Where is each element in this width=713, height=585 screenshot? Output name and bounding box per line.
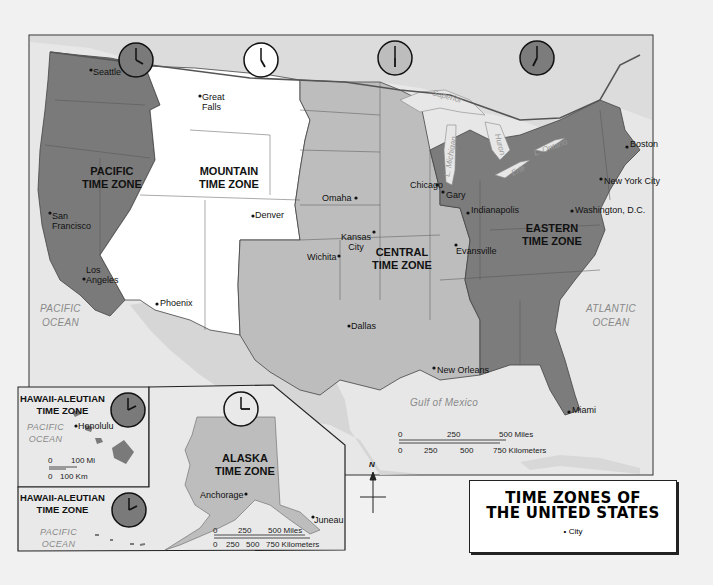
aleutian-pacific-label: PACIFICOCEAN [40, 526, 77, 550]
map-title-line-2: THE UNITED STATES [470, 506, 676, 521]
city-washington-dc: Washington, D.C. [575, 205, 645, 215]
clock-hawaii [111, 393, 145, 427]
city-indianapolis: Indianapolis [471, 205, 519, 215]
main-scale-miles-250: 250 [447, 430, 460, 439]
city-chicago: Chicago [410, 180, 443, 190]
hawaii-scale-mi-100: 100 Mi [71, 456, 95, 465]
zone-label-mountain: MOUNTAINTIME ZONE [199, 165, 259, 191]
city-new-york-city: New York City [604, 176, 660, 186]
zone-label-hawaii: HAWAII-ALEUTIANTIME ZONE [20, 393, 105, 417]
atlantic-ocean-label: ATLANTICOCEAN [586, 302, 636, 330]
main-scale-km-0: 0 [398, 446, 402, 455]
compass-rose [360, 472, 386, 513]
city-kansas-city: KansasCity [341, 232, 371, 252]
alaska-scale-km-250: 250 [226, 540, 239, 549]
pacific-ocean-label: PACIFICOCEAN [40, 302, 81, 330]
clock-eastern [520, 41, 554, 75]
clock-pacific [119, 43, 153, 77]
zone-label-eastern: EASTERNTIME ZONE [522, 222, 582, 248]
city-wichita: Wichita [307, 252, 337, 262]
legend-city: • City [470, 527, 676, 536]
hawaii-scale-mi-0: 0 [48, 456, 52, 465]
clock-aleutian [112, 493, 146, 527]
hawaii-scale-km-0: 0 [48, 472, 52, 481]
city-denver: Denver [255, 210, 284, 220]
clock-central [378, 41, 412, 75]
city-omaha: Omaha [322, 193, 352, 203]
zone-label-central: CENTRALTIME ZONE [372, 246, 432, 272]
city-gary: Gary [446, 190, 466, 200]
alaska-scale-miles-250: 250 [238, 526, 251, 535]
city-anchorage: Anchorage [200, 490, 244, 500]
zone-label-pacific: PACIFICTIME ZONE [82, 165, 142, 191]
compass-north-label: N [369, 460, 375, 469]
map-title-legend-box: TIME ZONES OF THE UNITED STATES • City [469, 480, 677, 553]
alaska-scale-miles-500: 500 Miles [268, 526, 302, 535]
main-scale-miles-500: 500 Miles [499, 430, 533, 439]
city-symbol-icon: • [564, 527, 567, 536]
alaska-scale-miles-0: 0 [213, 526, 217, 535]
clock-mountain [244, 43, 278, 77]
main-scale-km-250: 250 [424, 446, 437, 455]
city-new-orleans: New Orleans [437, 365, 489, 375]
city-miami: Miami [572, 405, 596, 415]
gulf-of-mexico-label: Gulf of Mexico [410, 396, 478, 410]
alaska-scale-km-0: 0 [213, 540, 217, 549]
city-boston: Boston [630, 139, 658, 149]
city-dallas: Dallas [351, 321, 376, 331]
hawaii-pacific-label: PACIFICOCEAN [27, 421, 64, 445]
city-seattle: Seattle [93, 67, 121, 77]
alaska-scale-km-750: 750 Kilometers [266, 540, 319, 549]
alaska-scale-km-500: 500 [246, 540, 259, 549]
city-evansville: Evansville [456, 246, 497, 256]
zone-label-alaska: ALASKATIME ZONE [215, 452, 275, 478]
legend-city-label: City [569, 527, 583, 536]
city-juneau: Juneau [314, 515, 344, 525]
main-scale-km-500: 500 [460, 446, 473, 455]
city-los-angeles: LosAngeles [86, 265, 119, 285]
main-scale-miles-0: 0 [398, 430, 402, 439]
main-scale-km-750: 750 Kilometers [493, 446, 546, 455]
zone-label-aleutian: HAWAII-ALEUTIANTIME ZONE [20, 492, 105, 516]
city-great-falls: GreatFalls [202, 92, 225, 112]
hawaii-scale-km-100: 100 Km [60, 472, 88, 481]
city-phoenix: Phoenix [160, 298, 193, 308]
city-honolulu: Honolulu [78, 421, 114, 431]
city-san-francisco: SanFrancisco [52, 211, 91, 231]
clock-alaska [224, 392, 258, 426]
